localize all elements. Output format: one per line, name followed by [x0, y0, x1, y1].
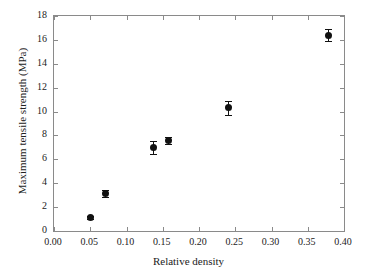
y-tick-label: 8 — [0, 128, 47, 139]
x-axis-tick — [127, 227, 128, 231]
y-axis-tick — [54, 88, 58, 89]
y-axis-tick-right — [340, 16, 344, 17]
y-axis-tick-right — [340, 135, 344, 136]
y-axis-tick — [54, 183, 58, 184]
x-axis-tick — [272, 227, 273, 231]
y-axis-tick — [54, 231, 58, 232]
y-axis-tick-right — [340, 112, 344, 113]
error-bar-cap-upper — [325, 29, 332, 30]
data-point-marker — [150, 144, 157, 151]
x-axis-tick-top — [272, 16, 273, 20]
y-axis-tick — [54, 207, 58, 208]
y-axis-tick — [54, 135, 58, 136]
y-axis-tick — [54, 64, 58, 65]
x-tick-label: 0.15 — [142, 236, 182, 247]
y-tick-label: 16 — [0, 33, 47, 44]
y-axis-tick-right — [340, 40, 344, 41]
data-point-marker — [102, 190, 109, 197]
x-tick-label: 0.10 — [106, 236, 146, 247]
y-axis-tick-right — [340, 231, 344, 232]
x-tick-label: 0.05 — [69, 236, 109, 247]
x-axis-tick — [163, 227, 164, 231]
data-point-marker — [325, 32, 332, 39]
x-axis-tick-top — [235, 16, 236, 20]
plot-frame — [53, 15, 345, 232]
y-axis-tick — [54, 159, 58, 160]
x-tick-label: 0.20 — [178, 236, 218, 247]
figure: Relative density Maximum tensile strengt… — [0, 0, 377, 278]
y-axis-tick-right — [340, 64, 344, 65]
x-axis-tick — [308, 227, 309, 231]
y-tick-label: 10 — [0, 105, 47, 116]
plot-area — [54, 16, 344, 231]
x-tick-label: 0.25 — [214, 236, 254, 247]
y-tick-label: 14 — [0, 57, 47, 68]
x-tick-label: 0.30 — [251, 236, 291, 247]
x-axis-label: Relative density — [0, 255, 377, 267]
x-axis-tick-top — [344, 16, 345, 20]
y-tick-label: 0 — [0, 224, 47, 235]
x-tick-label: 0.35 — [287, 236, 327, 247]
y-tick-label: 12 — [0, 81, 47, 92]
x-axis-tick — [199, 227, 200, 231]
error-bar-cap-upper — [150, 141, 157, 142]
error-bar-cap-lower — [225, 115, 232, 116]
y-axis-tick-right — [340, 88, 344, 89]
error-bar-cap-lower — [165, 144, 172, 145]
x-axis-tick-top — [90, 16, 91, 20]
x-axis-tick-top — [127, 16, 128, 20]
data-point-marker — [87, 214, 94, 221]
x-tick-label: 0.40 — [323, 236, 363, 247]
y-axis-tick-right — [340, 207, 344, 208]
x-axis-tick — [344, 227, 345, 231]
x-axis-tick-top — [199, 16, 200, 20]
x-axis-tick — [235, 227, 236, 231]
x-axis-tick — [90, 227, 91, 231]
y-axis-tick — [54, 40, 58, 41]
x-axis-tick-top — [308, 16, 309, 20]
y-axis-tick — [54, 112, 58, 113]
y-axis-tick-right — [340, 183, 344, 184]
error-bar-cap-lower — [150, 154, 157, 155]
y-axis-tick — [54, 16, 58, 17]
y-axis-label: Maximum tensile strength (MPa) — [16, 16, 28, 226]
y-tick-label: 6 — [0, 152, 47, 163]
y-axis-tick-right — [340, 159, 344, 160]
y-tick-label: 4 — [0, 176, 47, 187]
error-bar-cap-upper — [225, 101, 232, 102]
x-axis-tick-top — [163, 16, 164, 20]
y-tick-label: 18 — [0, 9, 47, 20]
y-tick-label: 2 — [0, 200, 47, 211]
data-point-marker — [165, 137, 172, 144]
data-point-marker — [225, 104, 232, 111]
error-bar-cap-lower — [325, 41, 332, 42]
x-tick-label: 0.00 — [33, 236, 73, 247]
